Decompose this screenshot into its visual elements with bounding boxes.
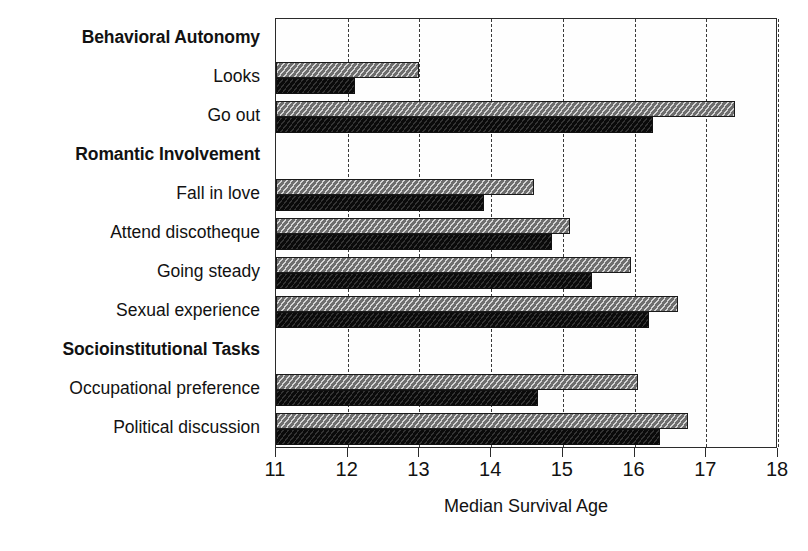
tick-label-15: 15 <box>551 459 573 479</box>
bar-group <box>276 256 778 298</box>
bar-low <box>276 374 638 390</box>
group-header-label: Socioinstitutional Tasks <box>62 341 260 359</box>
tickmark-16 <box>634 448 635 457</box>
tick-label-11: 11 <box>265 459 286 479</box>
category-label: Fall in love <box>176 185 260 203</box>
bar-group <box>276 100 778 142</box>
bar-high <box>276 234 552 250</box>
bar-group <box>276 61 778 103</box>
category-label: Political discussion <box>113 419 260 437</box>
tick-label-17: 17 <box>694 459 716 479</box>
tick-label-12: 12 <box>336 459 358 479</box>
category-axis-labels: Behavioral AutonomyLooksGo outRomantic I… <box>0 18 268 448</box>
bar-low <box>276 257 631 273</box>
x-axis-tickmarks <box>275 448 777 458</box>
bar-low <box>276 218 570 234</box>
bar-group <box>276 217 778 259</box>
tickmark-17 <box>705 448 706 457</box>
bar-high <box>276 390 538 406</box>
x-axis-tick-labels: 1112131415161718 <box>275 459 777 485</box>
bar-low <box>276 101 735 117</box>
plot-area: Adversity lowhigh <box>275 18 777 448</box>
tickmark-13 <box>418 448 419 457</box>
category-label: Attend discotheque <box>110 224 260 242</box>
bar-high <box>276 312 649 328</box>
category-label: Occupational preference <box>69 380 260 398</box>
bar-group <box>276 178 778 220</box>
tickmark-18 <box>777 448 778 457</box>
bar-low <box>276 179 534 195</box>
tick-label-16: 16 <box>622 459 644 479</box>
tickmark-14 <box>490 448 491 457</box>
group-header-label: Behavioral Autonomy <box>82 29 260 47</box>
bar-group <box>276 373 778 415</box>
tickmark-11 <box>275 448 276 457</box>
category-label: Looks <box>213 68 260 86</box>
bar-high <box>276 273 592 289</box>
gridline-18 <box>778 19 779 447</box>
bar-low <box>276 62 419 78</box>
plot-inner <box>276 19 776 447</box>
category-label: Going steady <box>157 263 260 281</box>
tickmark-12 <box>347 448 348 457</box>
tick-label-13: 13 <box>407 459 429 479</box>
bar-high <box>276 78 355 94</box>
category-label: Go out <box>207 107 260 125</box>
tick-label-14: 14 <box>479 459 501 479</box>
bar-group <box>276 295 778 337</box>
bar-chart-figure: Behavioral AutonomyLooksGo outRomantic I… <box>0 0 808 551</box>
tickmark-15 <box>562 448 563 457</box>
bar-low <box>276 296 678 312</box>
x-axis-title: Median Survival Age <box>275 496 777 517</box>
category-label: Sexual experience <box>116 302 260 320</box>
bar-low <box>276 413 688 429</box>
group-header-label: Romantic Involvement <box>75 146 260 164</box>
tick-label-18: 18 <box>766 459 788 479</box>
bar-high <box>276 429 660 445</box>
bar-high <box>276 117 653 133</box>
bar-high <box>276 195 484 211</box>
